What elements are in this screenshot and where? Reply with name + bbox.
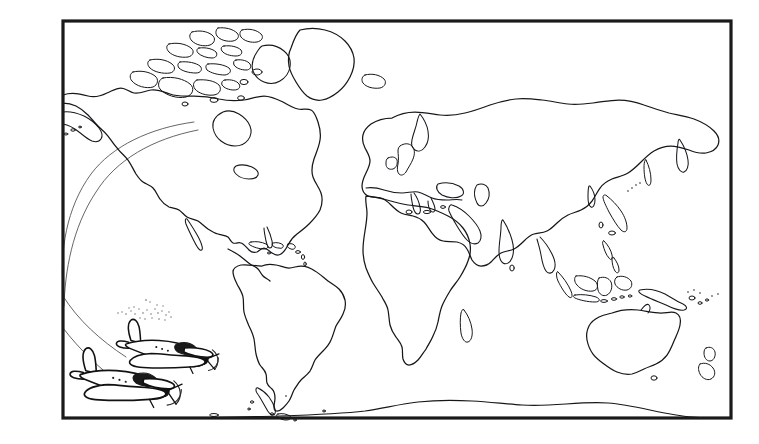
contrail-dot [138, 308, 139, 309]
contrail-dot [170, 316, 172, 318]
contrail-dot [130, 310, 131, 311]
contrail-dot [146, 309, 147, 310]
illustration-canvas [0, 0, 759, 444]
contrail-dot [121, 311, 122, 312]
contrail-dot [158, 318, 160, 320]
contrail-dot [149, 301, 150, 302]
contrail-dot [117, 312, 119, 314]
contrail-dot [157, 312, 159, 314]
contrail-dot [128, 307, 129, 308]
contrail-dot [154, 308, 155, 309]
contrail-dot [164, 319, 165, 320]
contrail-dot [125, 313, 127, 315]
contrail-dot [162, 305, 163, 306]
contrail-dot [142, 312, 144, 314]
contrail-dot [133, 306, 134, 307]
contrail-dot [161, 310, 162, 311]
world-map-svg [0, 0, 759, 444]
contrail-dot [165, 314, 167, 316]
small-island-dot [285, 395, 287, 397]
contrail-dot [139, 317, 140, 318]
contrail-dot [144, 318, 146, 320]
contrail-dot [168, 311, 169, 312]
contrail-dot [134, 313, 136, 315]
contrail-dot [150, 313, 152, 315]
contrail-dot [151, 317, 152, 318]
contrail-dot [145, 299, 147, 301]
contrail-dot [156, 304, 157, 305]
